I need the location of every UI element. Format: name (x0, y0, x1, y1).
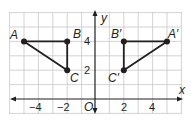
label-a-prime: A′ (167, 27, 179, 41)
label-a: A (9, 28, 18, 42)
x-tick-neg4: −4 (29, 101, 42, 113)
point-c-prime (121, 67, 127, 73)
y-tick-4: 4 (84, 35, 90, 47)
x-tick-4: 4 (149, 101, 155, 113)
label-b-prime: B′ (111, 27, 122, 41)
y-tick-2: 2 (84, 64, 90, 76)
label-b: B (73, 27, 81, 41)
y-axis-label: y (100, 11, 108, 25)
point-b-prime (121, 38, 127, 44)
x-tick-2: 2 (121, 101, 127, 113)
point-b (64, 38, 70, 44)
origin-label: O (84, 100, 93, 114)
coordinate-plane: y x O −4 −2 2 4 4 2 A B C A′ B′ C′ (0, 0, 191, 125)
label-c-prime: C′ (108, 71, 120, 85)
label-c: C (70, 71, 79, 85)
point-a (21, 38, 27, 44)
x-tick-neg2: −2 (57, 101, 70, 113)
x-axis-label: x (178, 83, 186, 97)
